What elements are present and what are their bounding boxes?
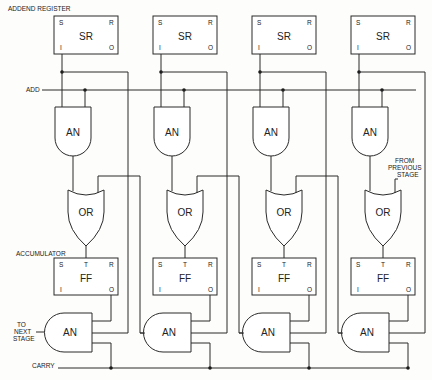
and-gate-label: AN: [63, 327, 77, 338]
sr-pin-i: I: [60, 44, 62, 51]
sr-label: SR: [376, 31, 390, 42]
ff-pin-t: T: [282, 261, 286, 268]
and-gate-label: AN: [165, 127, 179, 138]
sr-pin-o: O: [406, 44, 411, 51]
to-next-stage-label-3: STAGE: [13, 335, 35, 342]
to-next-stage-label-1: TO: [17, 321, 26, 328]
or-gate: [167, 190, 203, 246]
ff-pin-o: O: [406, 286, 411, 293]
or-gate: [68, 190, 104, 246]
circuit-svg: ADDEND REGISTER ADD ACCUMULATOR CARRY TO…: [0, 0, 432, 380]
ff-pin-o: O: [307, 286, 312, 293]
ff-pin-s: S: [356, 261, 361, 268]
sr-pin-o: O: [109, 44, 114, 51]
and-gate-label: AN: [264, 127, 278, 138]
ff-pin-r: R: [307, 261, 312, 268]
ff-pin-r: R: [109, 261, 114, 268]
adder-circuit-diagram: ADDEND REGISTER ADD ACCUMULATOR CARRY TO…: [0, 0, 432, 380]
stage-1: SRIOSRANORSTRIOFFAN: [45, 16, 146, 370]
or-gate-label: OR: [277, 207, 292, 218]
ff-pin-i: I: [357, 286, 359, 293]
sr-pin-r: R: [406, 19, 411, 26]
junction-dot: [307, 366, 311, 370]
and-gate-label: AN: [261, 327, 275, 338]
ff-label: FF: [80, 273, 92, 284]
ff-pin-i: I: [258, 286, 260, 293]
or-gate: [266, 190, 302, 246]
and-gate-label: AN: [363, 127, 377, 138]
from-previous-stage-label-1: FROM: [395, 157, 414, 164]
sr-pin-s: S: [158, 19, 163, 26]
from-previous-stage-label-3: STAGE: [397, 171, 419, 178]
stage-3: SRIOSRANORSTRIOFFAN: [239, 16, 343, 370]
sr-label: SR: [277, 31, 291, 42]
sr-label: SR: [79, 31, 93, 42]
ff-pin-r: R: [208, 261, 213, 268]
sr-pin-i: I: [159, 44, 161, 51]
to-next-stage-label-2: NEXT: [14, 328, 31, 335]
ff-pin-s: S: [257, 261, 262, 268]
ff-pin-r: R: [406, 261, 411, 268]
sr-label: SR: [178, 31, 192, 42]
junction-dot: [208, 366, 212, 370]
ff-pin-t: T: [381, 261, 385, 268]
sr-pin-o: O: [208, 44, 213, 51]
stage-4: SRIOSRANORSTRIOFFAN: [338, 16, 425, 370]
sr-pin-i: I: [258, 44, 260, 51]
or-gate: [365, 190, 401, 246]
sr-pin-s: S: [356, 19, 361, 26]
ff-pin-t: T: [84, 261, 88, 268]
sr-pin-s: S: [257, 19, 262, 26]
sr-pin-r: R: [109, 19, 114, 26]
ff-label: FF: [278, 273, 290, 284]
or-gate-label: OR: [178, 207, 193, 218]
ff-pin-s: S: [158, 261, 163, 268]
sr-pin-r: R: [208, 19, 213, 26]
ff-pin-i: I: [60, 286, 62, 293]
ff-pin-o: O: [208, 286, 213, 293]
or-gate-label: OR: [79, 207, 94, 218]
and-gate-label: AN: [360, 327, 374, 338]
carry-label: CARRY: [32, 362, 55, 369]
ff-pin-s: S: [59, 261, 64, 268]
junction-dot: [109, 366, 113, 370]
sr-pin-r: R: [307, 19, 312, 26]
sr-pin-i: I: [357, 44, 359, 51]
ff-pin-o: O: [109, 286, 114, 293]
and-gate-label: AN: [66, 127, 80, 138]
accumulator-label: ACCUMULATOR: [16, 250, 66, 257]
or-gate-label: OR: [376, 207, 391, 218]
from-previous-stage-label-2: PREVIOUS: [388, 164, 422, 171]
junction-dot: [406, 366, 410, 370]
sr-pin-o: O: [307, 44, 312, 51]
ff-pin-i: I: [159, 286, 161, 293]
ff-pin-t: T: [183, 261, 187, 268]
sr-pin-s: S: [59, 19, 64, 26]
and-gate-label: AN: [162, 327, 176, 338]
addend-register-label: ADDEND REGISTER: [8, 5, 71, 12]
ff-label: FF: [377, 273, 389, 284]
ff-label: FF: [179, 273, 191, 284]
stage-2: SRIOSRANORSTRIOFFAN: [140, 16, 244, 370]
add-label: ADD: [26, 86, 40, 93]
